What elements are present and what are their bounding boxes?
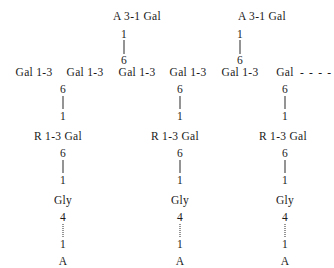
glycan-structure-diagram: Gal 1-3Gal 1-3Gal 1-3Gal 1-3Gal 1-3Gal- … — [0, 0, 334, 268]
backbone-unit-1: Gal 1-3 — [16, 66, 53, 78]
lower-branch-1-locant-6a: 6 — [60, 83, 66, 95]
backbone-unit-6: Gal — [276, 66, 294, 78]
lower-branch-2-bond-2 — [180, 160, 181, 173]
lower-branch-2-locant-1a: 1 — [177, 110, 183, 122]
lower-branch-3-terminal: A — [281, 255, 290, 267]
lower-branch-1-locant-1b: 1 — [60, 174, 66, 186]
lower-branch-3-locant-1b: 1 — [282, 174, 288, 186]
lower-branch-3-glycerol: Gly — [276, 194, 294, 206]
upper-branch-bond-2 — [240, 40, 241, 54]
lower-branch-3-bond-2 — [285, 160, 286, 173]
backbone-unit-2: Gal 1-3 — [67, 66, 104, 78]
lower-branch-3-bond-1 — [285, 96, 286, 109]
lower-branch-1-bond-1 — [63, 96, 64, 109]
lower-branch-1-locant-1c: 1 — [60, 238, 66, 250]
upper-branch-locant-bottom-1: 6 — [121, 54, 127, 66]
lower-branch-2-locant-6b: 6 — [177, 147, 183, 159]
upper-branch-residue-2: A 3-1 Gal — [238, 10, 286, 22]
lower-branch-3-locant-6b: 6 — [282, 147, 288, 159]
lower-branch-2-locant-1c: 1 — [177, 238, 183, 250]
backbone-unit-4: Gal 1-3 — [170, 66, 207, 78]
lower-branch-1-locant-4: 4 — [60, 211, 66, 223]
lower-branch-2-residue: R 1-3 Gal — [151, 130, 199, 142]
lower-branch-2-locant-4: 4 — [177, 211, 183, 223]
upper-branch-locant-top-1: 1 — [121, 28, 127, 40]
lower-branch-1-locant-6b: 6 — [60, 147, 66, 159]
lower-branch-3-residue: R 1-3 Gal — [259, 130, 307, 142]
lower-branch-2-bond-1 — [180, 96, 181, 109]
lower-branch-1-bond-2 — [63, 160, 64, 173]
lower-branch-3-locant-1c: 1 — [282, 238, 288, 250]
lower-branch-2-glycerol: Gly — [171, 194, 189, 206]
lower-branch-3-bond-3 — [285, 224, 286, 237]
lower-branch-2-locant-1b: 1 — [177, 174, 183, 186]
lower-branch-1-residue: R 1-3 Gal — [34, 130, 82, 142]
lower-branch-2-locant-6a: 6 — [177, 83, 183, 95]
lower-branch-3-locant-6a: 6 — [282, 83, 288, 95]
upper-branch-locant-top-2: 1 — [237, 28, 243, 40]
backbone-unit-5: Gal 1-3 — [222, 66, 259, 78]
upper-branch-residue-1: A 3-1 Gal — [113, 10, 161, 22]
lower-branch-1-glycerol: Gly — [54, 194, 72, 206]
lower-branch-1-locant-1a: 1 — [60, 110, 66, 122]
lower-branch-2-bond-3 — [180, 224, 181, 237]
lower-branch-3-locant-1a: 1 — [282, 110, 288, 122]
backbone-unit-3: Gal 1-3 — [119, 66, 156, 78]
upper-branch-locant-bottom-2: 6 — [237, 54, 243, 66]
lower-branch-1-bond-3 — [63, 224, 64, 237]
upper-branch-bond-1 — [124, 40, 125, 54]
lower-branch-2-terminal: A — [176, 255, 185, 267]
chain-continuation-dashes: - - - - — [300, 66, 332, 78]
lower-branch-3-locant-4: 4 — [282, 211, 288, 223]
lower-branch-1-terminal: A — [59, 255, 68, 267]
